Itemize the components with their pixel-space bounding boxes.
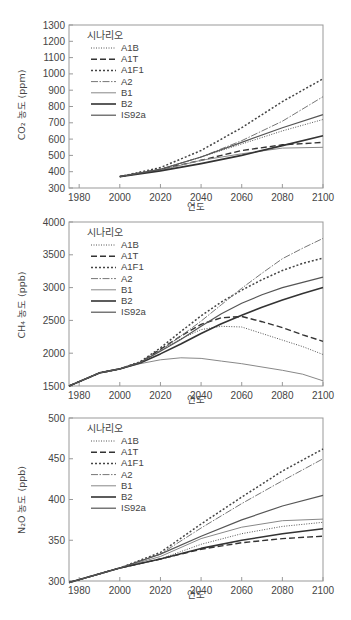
legend-label-is92a: IS92a (121, 502, 147, 513)
x-tick-label: 2000 (109, 390, 132, 401)
series-line-a1t (69, 536, 323, 582)
y-tick-label: 500 (48, 413, 65, 424)
series-line-a1t (69, 317, 323, 387)
legend-label-is92a: IS92a (121, 306, 147, 317)
plot-frame (69, 418, 323, 581)
legend-label-a2: A2 (121, 469, 133, 480)
legend-label-a1b: A1B (121, 239, 139, 250)
legend-label-b1: B1 (121, 284, 133, 295)
legend-label-a2: A2 (121, 273, 133, 284)
y-tick-label: 1200 (43, 36, 66, 47)
plot-frame (69, 222, 323, 386)
legend-title: 시나리오 (87, 423, 123, 434)
series-line-is92a (120, 115, 323, 177)
x-tick-label: 2060 (231, 390, 254, 401)
y-tick-label: 4000 (43, 217, 66, 228)
x-tick-label: 2000 (109, 192, 132, 203)
y-tick-label: 300 (48, 183, 65, 194)
x-tick-label: 2000 (109, 585, 132, 596)
chart-panel-3: 3003504004505001980200020202040206020802… (16, 413, 335, 601)
y-tick-label: 400 (48, 166, 65, 177)
y-tick-label: 1500 (43, 381, 66, 392)
x-axis-label: 연도 (187, 394, 205, 405)
legend-label-a1t: A1T (121, 250, 139, 261)
legend-label-b2: B2 (121, 491, 133, 502)
legend: 시나리오A1BA1TA1F1A2B1B2IS92a (87, 423, 147, 513)
x-axis-label: 연도 (187, 589, 205, 600)
legend-label-a1t: A1T (121, 53, 139, 64)
plot-frame (69, 25, 323, 188)
x-tick-label: 2100 (312, 192, 335, 203)
x-tick-label: 1980 (68, 390, 91, 401)
x-tick-label: 2080 (271, 192, 294, 203)
legend-label-b2: B2 (121, 295, 133, 306)
x-axis-label: 연도 (187, 201, 205, 212)
x-tick-label: 2100 (312, 585, 335, 596)
legend-label-a1f1: A1F1 (121, 457, 144, 468)
x-tick-label: 2020 (149, 585, 172, 596)
legend: 시나리오A1BA1TA1F1A2B1B2IS92a (87, 30, 147, 120)
x-tick-label: 2080 (271, 390, 294, 401)
x-tick-label: 2020 (149, 390, 172, 401)
y-tick-label: 300 (48, 576, 65, 587)
legend-label-a1f1: A1F1 (121, 64, 144, 75)
x-tick-label: 2100 (312, 390, 335, 401)
y-axis-label: CO₂ 농도 (ppm) (16, 70, 27, 141)
legend-label-a1t: A1T (121, 446, 139, 457)
legend-title: 시나리오 (87, 30, 123, 41)
y-tick-label: 700 (48, 117, 65, 128)
series-line-a1f1 (69, 449, 323, 583)
x-tick-label: 1980 (68, 585, 91, 596)
series-line-b2 (69, 529, 323, 583)
y-tick-label: 450 (48, 453, 65, 464)
legend-label-is92a: IS92a (121, 109, 147, 120)
x-tick-label: 2080 (271, 585, 294, 596)
y-tick-label: 2500 (43, 315, 66, 326)
series-line-a2 (120, 97, 323, 177)
y-tick-label: 2000 (43, 348, 66, 359)
y-tick-label: 1000 (43, 68, 66, 79)
chart-panel-2: 1500200025003000350040001980200020202040… (16, 217, 335, 406)
legend-label-b2: B2 (121, 98, 133, 109)
y-axis-label: CH₄ 농도 (ppb) (16, 271, 27, 338)
legend-label-a1b: A1B (121, 435, 139, 446)
y-axis-label: N₂O 농도 (ppb) (16, 466, 27, 534)
series-line-a1f1 (69, 258, 323, 386)
x-tick-label: 1980 (68, 192, 91, 203)
y-tick-label: 3500 (43, 249, 66, 260)
y-tick-label: 3000 (43, 282, 66, 293)
series-line-is92a (69, 277, 323, 386)
legend-label-a2: A2 (121, 76, 133, 87)
x-tick-label: 2060 (231, 585, 254, 596)
legend: 시나리오A1BA1TA1F1A2B1B2IS92a (87, 227, 147, 317)
series-line-a1f1 (120, 79, 323, 177)
y-tick-label: 400 (48, 494, 65, 505)
legend-label-b1: B1 (121, 480, 133, 491)
chart-panel-1: 3004005006007008009001000110012001300198… (16, 20, 335, 213)
x-tick-label: 2020 (149, 192, 172, 203)
y-tick-label: 900 (48, 85, 65, 96)
legend-label-a1b: A1B (121, 42, 139, 53)
y-tick-label: 1300 (43, 20, 66, 31)
legend-label-a1f1: A1F1 (121, 261, 144, 272)
legend-label-b1: B1 (121, 87, 133, 98)
x-tick-label: 2060 (231, 192, 254, 203)
y-tick-label: 500 (48, 150, 65, 161)
y-tick-label: 800 (48, 101, 65, 112)
legend-title: 시나리오 (87, 227, 123, 238)
chart-canvas: 3004005006007008009001000110012001300198… (0, 0, 351, 620)
y-tick-label: 350 (48, 535, 65, 546)
y-tick-label: 600 (48, 134, 65, 145)
y-tick-label: 1100 (43, 52, 65, 63)
